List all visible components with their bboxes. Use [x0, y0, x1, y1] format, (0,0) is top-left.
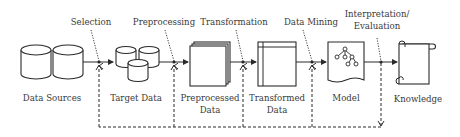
scroll-icon: [396, 41, 436, 84]
database-cluster-icon: [116, 47, 159, 82]
node-label-knowledge: Knowledge: [394, 94, 442, 104]
step-label-evaluation: Evaluation: [354, 21, 401, 31]
node-label-transformed-line2: Data: [267, 105, 288, 115]
node-label-data-sources: Data Sources: [23, 93, 81, 103]
node-label-target-data: Target Data: [110, 93, 162, 103]
stacked-pages-icon: [190, 42, 230, 86]
node-label-model: Model: [332, 93, 359, 103]
node-label-preprocessed-line2: Data: [200, 105, 221, 115]
table-page-icon: [258, 42, 296, 86]
step-label-data-mining: Data Mining: [284, 17, 338, 27]
step-label-transformation: Transformation: [200, 17, 268, 27]
node-label-preprocessed-line1: Preprocessed: [180, 93, 239, 103]
databases-icon: [21, 45, 83, 79]
kdd-process-diagram: Selection Preprocessing Transformation D…: [0, 0, 460, 137]
step-label-preprocessing: Preprocessing: [133, 17, 195, 27]
tree-document-icon: [328, 42, 364, 82]
step-label-selection: Selection: [71, 17, 112, 27]
step-label-interpretation: Interpretation/: [345, 9, 410, 19]
node-label-transformed-line1: Transformed: [249, 93, 305, 103]
